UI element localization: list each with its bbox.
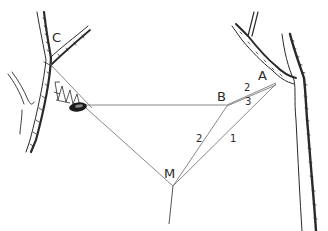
left-tree-twig-lower [20,110,22,134]
label-thread-3: 3 [245,96,251,107]
left-tree-twig [8,72,34,104]
web-mesh [50,64,92,108]
label-C: C [52,30,61,45]
label-thread-2-lower: 2 [196,133,202,144]
thread-B-to-A-3 [227,85,276,106]
left-trunk-outline [26,12,46,152]
spider-retreat [68,101,87,112]
left-tree [8,12,90,152]
thread-M-to-ground [169,186,173,224]
right-tree-twig [248,12,258,36]
thread-B-to-M-2 [173,106,227,186]
spider-thread-diagram: C B A M 2 3 2 1 [0,0,328,231]
thread-retreat-to-M [86,108,173,186]
label-M: M [164,166,175,181]
label-thread-2-upper: 2 [244,82,250,93]
label-A: A [258,68,267,83]
label-thread-1: 1 [230,133,236,144]
thread-B-to-A-2 [227,83,276,105]
right-tree [232,12,317,231]
label-B: B [217,89,226,104]
right-trunk-shade [290,34,316,231]
